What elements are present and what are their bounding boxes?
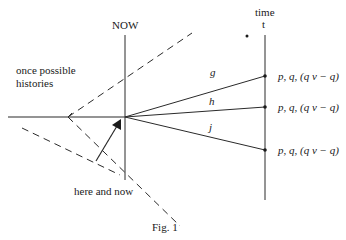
now-label: NOW	[112, 19, 138, 31]
branch-g-formula: p, q, (q v − q)	[278, 70, 339, 82]
branch-g-label: g	[210, 66, 216, 78]
branch-h-label: h	[209, 95, 215, 107]
here-and-now-label: here and now	[74, 185, 133, 197]
dashed-history-bottom	[22, 128, 120, 175]
branch-j-endpoint	[263, 148, 267, 152]
time-label: time	[255, 6, 275, 18]
here-and-now-arrow-shaft	[96, 126, 117, 161]
branch-g-endpoint	[263, 74, 267, 78]
figure-caption: Fig. 1	[152, 221, 178, 233]
branch-j-line	[125, 117, 265, 150]
isolated-dot	[246, 35, 249, 38]
branch-j-formula: p, q, (q v − q)	[278, 144, 339, 156]
dashed-history-upper	[68, 33, 192, 117]
t-label: t	[262, 18, 265, 30]
branch-h-formula: p, q, (q v − q)	[278, 101, 339, 113]
branch-j-label: j	[209, 121, 212, 133]
once-possible-label-line2: histories	[16, 77, 53, 89]
here-and-now-arrow-head	[112, 119, 121, 130]
once-possible-label-line1: once possible	[16, 64, 76, 76]
branch-h-line	[125, 107, 265, 117]
branch-h-endpoint	[263, 105, 267, 109]
branch-g-line	[125, 76, 265, 117]
dashed-history-lower	[68, 117, 180, 226]
diagram-canvas	[0, 0, 346, 240]
